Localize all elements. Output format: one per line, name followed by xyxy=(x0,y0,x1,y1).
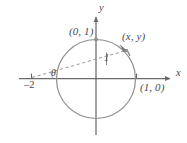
radius-length-label: 1 xyxy=(104,53,109,64)
x-tick-label-negative-two: –2 xyxy=(24,80,35,91)
point-label-zero-one: (0, 1) xyxy=(69,26,93,37)
x-axis-label: x xyxy=(176,68,181,79)
y-axis-label: y xyxy=(99,3,104,14)
point-marker-xy xyxy=(125,49,128,52)
unit-circle-figure: y x (0, 1) (x, y) (1, 0) 1 θ –2 xyxy=(0,0,187,143)
point-label-x-y: (x, y) xyxy=(122,31,145,42)
terminal-ray-dashed xyxy=(32,50,128,78)
point-marker-top xyxy=(94,38,98,42)
point-label-one-zero: (1, 0) xyxy=(140,82,164,93)
angle-theta-label: θ xyxy=(51,68,56,78)
figure-canvas xyxy=(0,0,187,143)
